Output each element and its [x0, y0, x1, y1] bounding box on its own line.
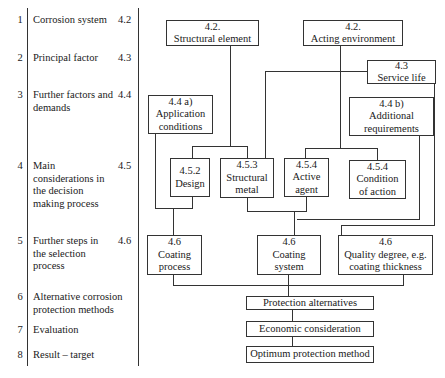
box-structural-metal: 4.5.3 Structural metal — [220, 158, 274, 198]
box-protection-alternatives: Protection alternatives — [246, 296, 374, 310]
box-economic-consideration: Economic consideration — [246, 321, 374, 337]
box-ref: 4.2. — [345, 21, 361, 34]
box-ref: 4.4 a) — [169, 96, 193, 109]
box-application-conditions: 4.4 a) Application conditions — [148, 95, 213, 134]
box-ref: 4.6 — [282, 236, 295, 249]
box-label: Service life — [377, 72, 425, 85]
box-ref: 4.5.2 — [180, 165, 201, 178]
box-label-line1: Structural — [226, 172, 267, 185]
box-optimum-protection-method: Optimum protection method — [246, 346, 374, 363]
box-acting-environment: 4.2. Acting environment — [303, 20, 403, 46]
box-label-line1: Coating — [158, 249, 191, 262]
box-label: Optimum protection method — [250, 348, 370, 361]
box-label-line1: Application — [156, 108, 206, 121]
box-coating-process: 4.6 Coating process — [147, 235, 202, 275]
box-label-line2: coating thickness — [349, 261, 422, 274]
box-label-line2: conditions — [159, 121, 203, 134]
box-coating-system: 4.6 Coating system — [257, 235, 321, 275]
box-ref: 4.6 — [168, 236, 181, 249]
box-label-line1: Coating — [272, 249, 305, 262]
box-service-life: 4.3 Service life — [367, 60, 436, 84]
box-label-line1: Condition — [356, 173, 398, 186]
box-ref: 4.5.4 — [367, 161, 388, 174]
box-additional-requirements: 4.4 b) Additional requirements — [349, 97, 434, 136]
box-label-line2: of action — [359, 186, 396, 199]
box-label: Acting environment — [311, 33, 395, 46]
box-structural-element: 4.2. Structural element — [166, 20, 259, 46]
box-label-line2: metal — [235, 184, 258, 197]
box-condition-of-action: 4.5.4 Condition of action — [349, 160, 406, 199]
box-label-line1: Additional — [369, 110, 414, 123]
box-label-line2: process — [159, 261, 191, 274]
box-ref: 4.2. — [205, 21, 221, 34]
box-label: Protection alternatives — [263, 297, 357, 310]
box-active-agent: 4.5.4 Active agent — [284, 158, 329, 197]
box-quality-degree: 4.6 Quality degree, e.g. coating thickne… — [338, 235, 433, 275]
box-ref: 4.5.3 — [237, 159, 258, 172]
box-label-line1: Active — [293, 171, 321, 184]
box-ref: 4.6 — [379, 236, 392, 249]
box-label-line2: system — [274, 261, 303, 274]
box-label: Structural element — [174, 33, 251, 46]
box-label-line2: agent — [295, 184, 318, 197]
box-ref: 4.5.4 — [296, 159, 317, 172]
box-label-line2: requirements — [364, 123, 419, 136]
box-ref: 4.4 b) — [379, 98, 404, 111]
box-design: 4.5.2 Design — [170, 158, 210, 197]
box-ref: 4.3 — [395, 60, 408, 73]
box-label-line1: Quality degree, e.g. — [344, 249, 427, 262]
box-label: Economic consideration — [259, 323, 361, 336]
box-label: Design — [175, 178, 205, 191]
